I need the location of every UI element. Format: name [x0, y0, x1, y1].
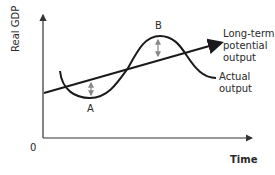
- y-axis-label: Real GDP: [10, 6, 21, 52]
- trend-line-label-2: potential: [223, 40, 275, 52]
- origin-label: 0: [30, 142, 36, 154]
- actual-output-label: Actual output: [219, 71, 252, 95]
- trend-line-label: Long-term potential output: [223, 28, 275, 64]
- trend-line: [44, 43, 220, 93]
- actual-output-label-2: output: [219, 83, 252, 95]
- x-axis-label: Time: [230, 154, 257, 166]
- actual-output-label-1: Actual: [219, 71, 252, 83]
- trend-line-label-3: output: [223, 52, 275, 64]
- point-b-label: B: [155, 20, 162, 32]
- trend-line-label-1: Long-term: [223, 28, 275, 40]
- point-a-label: A: [87, 103, 94, 115]
